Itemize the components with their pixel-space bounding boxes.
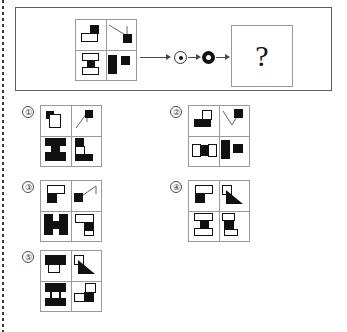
problem-panel: ? (15, 7, 332, 91)
black-rectangle (194, 119, 211, 127)
option-1-figure[interactable] (40, 105, 102, 167)
option-2-cell-bottom-right (218, 135, 249, 166)
option-4-label: ④ (170, 181, 182, 193)
main-figure-cell-bottom-right (105, 49, 136, 80)
answer-box: ? (231, 25, 293, 87)
option-1-cell-top-left (41, 106, 72, 137)
main-figure-cell-top-right (105, 20, 136, 51)
option-3-cell-bottom-left (41, 210, 72, 241)
option-2-label: ② (170, 106, 182, 118)
option-3-cell-top-left (41, 181, 72, 212)
black-square (85, 110, 93, 118)
main-figure-cell-top-left (76, 20, 107, 51)
option-1-cell-bottom-left (41, 135, 72, 166)
black-tall-rectangle (108, 55, 117, 74)
option-2-cell-bottom-left (189, 135, 220, 166)
option-4-figure[interactable] (188, 180, 250, 242)
option-3-cell-top-right (70, 181, 101, 212)
black-bar-bottom (45, 298, 66, 306)
option-3-figure[interactable] (40, 180, 102, 242)
black-bar-top (45, 283, 66, 292)
white-rectangle-bottom (74, 293, 85, 302)
white-rectangle-bottom (84, 230, 94, 236)
arrow-head-3 (225, 54, 230, 60)
black-bar-bottom (45, 152, 66, 161)
main-figure (75, 19, 137, 81)
option-3-label: ③ (22, 181, 34, 193)
black-square (123, 34, 132, 43)
black-square (84, 292, 94, 302)
main-figure-cell-bottom-left (76, 49, 107, 80)
scan-edge (2, 0, 4, 332)
black-tall-rectangle (221, 140, 230, 159)
option-2-cell-top-left (189, 106, 220, 137)
option-5-cell-bottom-left (41, 280, 72, 311)
option-4-cell-bottom-left (189, 210, 220, 241)
option-2-figure[interactable] (188, 105, 250, 167)
option-4-cell-bottom-right (218, 210, 249, 241)
black-square (74, 193, 83, 202)
question-mark: ? (232, 41, 292, 71)
black-bar (75, 154, 93, 161)
black-triangle (226, 190, 243, 204)
white-rectangle (81, 33, 98, 42)
black-square (195, 193, 205, 203)
option-4-cell-top-left (189, 181, 220, 212)
option-5-label: ⑤ (22, 251, 34, 263)
arrow-head-2 (196, 54, 201, 60)
option-1-cell-top-right (70, 106, 101, 137)
option-5-cell-bottom-right (70, 280, 101, 311)
option-5-figure[interactable] (40, 250, 102, 312)
black-square (47, 193, 57, 203)
option-1-label: ① (22, 106, 34, 118)
white-rectangle-bottom (194, 228, 213, 236)
option-5-cell-top-right (70, 251, 101, 282)
black-block-right (59, 214, 68, 235)
option-4-cell-top-right (218, 181, 249, 212)
option-2-cell-top-right (218, 106, 249, 137)
white-rectangle-bottom (82, 67, 99, 75)
option-1-cell-bottom-right (70, 135, 101, 166)
black-triangle (78, 260, 95, 274)
filled-disc-icon (202, 51, 215, 64)
black-square (233, 144, 243, 153)
arrow-head-1 (166, 54, 171, 60)
white-rectangle (48, 264, 60, 273)
black-square (121, 56, 130, 65)
white-rectangle-bottom (224, 229, 238, 236)
white-rectangle-right (208, 144, 217, 157)
arrow-line-1 (140, 57, 167, 58)
white-rectangle (49, 114, 61, 128)
option-3-cell-bottom-right (70, 210, 101, 241)
ring-dot-icon (174, 51, 187, 64)
option-5-cell-top-left (41, 251, 72, 282)
black-square (234, 109, 243, 118)
